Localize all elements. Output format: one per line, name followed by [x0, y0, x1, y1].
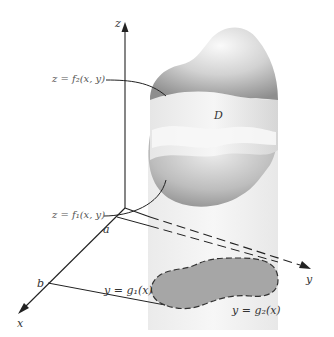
upper-boundary-label: y = g₂(x): [232, 305, 281, 316]
x-equals-a-line-solid: [117, 217, 150, 226]
x-axis-label: x: [17, 318, 23, 329]
point-a-label: a: [103, 224, 110, 235]
z-axis-label: z: [115, 18, 121, 29]
solid-middle-band: [150, 91, 278, 160]
triple-integral-diagram: z y x a b D z = f₂(x, y) z = f₁(x, y) y …: [0, 0, 334, 337]
lower-surface-label: z = f₁(x, y): [52, 210, 105, 220]
point-b-label: b: [37, 278, 44, 289]
y-axis-label: y: [306, 274, 312, 285]
z-axis-arrow-icon: [122, 22, 129, 32]
y-axis-arrow-icon: [299, 261, 311, 269]
lower-boundary-label: y = g₁(x): [104, 285, 153, 296]
diagram-graphics: [0, 0, 334, 337]
upper-surface-label: z = f₂(x, y): [52, 74, 105, 84]
region-d-label: D: [214, 110, 223, 121]
solid-top-surface: [150, 28, 278, 100]
